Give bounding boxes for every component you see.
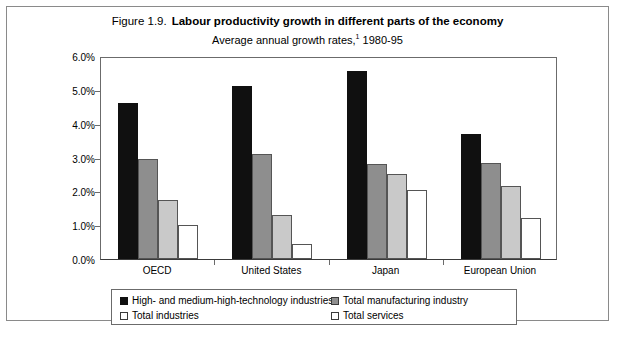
y-axis-tick-label: 2.0% — [49, 187, 95, 198]
y-axis-tick-label: 0.0% — [49, 255, 95, 266]
legend-entry-total-manufacturing-industry: Total manufacturing industry — [331, 295, 468, 306]
bar — [347, 71, 367, 259]
x-axis-group-separator — [329, 260, 330, 265]
legend-label: High- and medium-high-technology industr… — [132, 295, 333, 306]
bar — [501, 186, 521, 259]
bar — [178, 225, 198, 259]
x-axis-category-label: Japan — [372, 265, 399, 276]
legend-entry-total-services: Total services — [331, 310, 404, 321]
y-axis-tick-label: 3.0% — [49, 153, 95, 164]
legend-label: Total industries — [132, 310, 199, 321]
legend-swatch-icon — [120, 297, 128, 305]
bar — [461, 134, 481, 259]
legend-swatch-icon — [331, 297, 339, 305]
bar — [272, 215, 292, 259]
chart-legend: High- and medium-high-technology industr… — [111, 289, 517, 325]
legend-entry-total-industries: Total industries — [120, 310, 199, 321]
y-axis-tick-label: 1.0% — [49, 221, 95, 232]
y-axis-tick-label: 5.0% — [49, 85, 95, 96]
x-axis-group-separator — [214, 260, 215, 265]
x-axis-category-label: European Union — [464, 265, 536, 276]
bar — [138, 159, 158, 259]
plot-area — [100, 57, 557, 260]
legend-swatch-icon — [331, 312, 339, 320]
legend-entry-high-and-medium-high-technology-industries: High- and medium-high-technology industr… — [120, 295, 333, 306]
y-axis-tick-label: 6.0% — [49, 52, 95, 63]
bar — [481, 163, 501, 259]
y-axis-tick-mark — [95, 226, 100, 227]
bar — [387, 174, 407, 259]
bar — [292, 244, 312, 259]
x-axis-category-label: OECD — [143, 265, 172, 276]
chart-plot: 0.0%1.0%2.0%3.0%4.0%5.0%6.0% OECDUnited … — [7, 7, 610, 322]
bar — [367, 164, 387, 259]
x-axis-group-separator — [443, 260, 444, 265]
y-axis-tick-mark — [95, 159, 100, 160]
y-axis-tick-mark — [95, 125, 100, 126]
bar — [118, 103, 138, 259]
y-axis-tick-mark — [95, 192, 100, 193]
x-axis-category-label: United States — [241, 265, 301, 276]
bar — [158, 200, 178, 259]
y-axis-tick-label: 4.0% — [49, 119, 95, 130]
bar — [252, 154, 272, 259]
bar — [521, 218, 541, 259]
figure-frame: Figure 1.9.Labour productivity growth in… — [6, 6, 609, 321]
bar — [232, 86, 252, 259]
legend-label: Total manufacturing industry — [343, 295, 468, 306]
legend-label: Total services — [343, 310, 404, 321]
bar — [407, 190, 427, 259]
y-axis: 0.0%1.0%2.0%3.0%4.0%5.0%6.0% — [45, 57, 95, 260]
legend-swatch-icon — [120, 312, 128, 320]
y-axis-tick-mark — [95, 91, 100, 92]
